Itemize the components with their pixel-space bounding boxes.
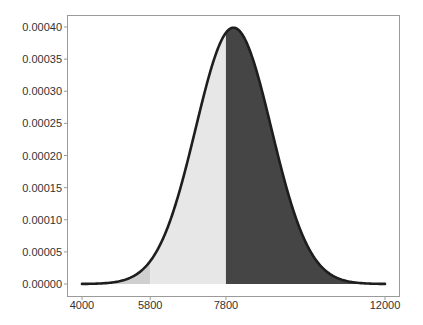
shaded-region-2 — [226, 28, 385, 284]
x-tick-label: 4000 — [70, 299, 94, 311]
y-axis: 0.000000.000050.000100.000150.000200.000… — [22, 21, 67, 290]
x-tick-label: 7800 — [214, 299, 238, 311]
y-tick-label: 0.00035 — [22, 53, 62, 65]
shaded-regions — [82, 28, 385, 284]
x-tick-label: 5800 — [138, 299, 162, 311]
normal-distribution-chart: 0.000000.000050.000100.000150.000200.000… — [0, 0, 423, 325]
x-tick-label: 12000 — [370, 299, 401, 311]
y-tick-label: 0.00020 — [22, 150, 62, 162]
y-tick-label: 0.00010 — [22, 214, 62, 226]
x-axis: 40005800780012000 — [70, 297, 401, 312]
y-tick-label: 0.00030 — [22, 85, 62, 97]
y-tick-label: 0.00000 — [22, 278, 62, 290]
y-tick-label: 0.00025 — [22, 117, 62, 129]
y-tick-label: 0.00005 — [22, 246, 62, 258]
y-tick-label: 0.00040 — [22, 21, 62, 33]
y-tick-label: 0.00015 — [22, 182, 62, 194]
